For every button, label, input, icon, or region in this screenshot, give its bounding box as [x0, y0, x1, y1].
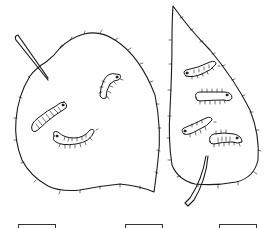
answer-box-2[interactable] [125, 224, 163, 228]
caterpillar-icon [32, 102, 67, 132]
caterpillar-icon [53, 129, 98, 148]
worksheet-illustration [0, 0, 271, 228]
right-leaf-stem-icon [185, 156, 208, 206]
answer-box-1[interactable] [18, 224, 56, 228]
caterpillar-icon [182, 117, 216, 137]
left-leaf [14, 30, 161, 194]
answer-box-3[interactable] [219, 224, 257, 228]
right-leaf-outline [169, 6, 258, 185]
caterpillar-icon [196, 89, 233, 104]
right-leaf [167, 6, 261, 206]
caterpillar-icon [184, 61, 220, 79]
caterpillar-icon [210, 130, 243, 147]
caterpillar-icon [99, 74, 123, 99]
left-leaf-outline [16, 33, 160, 192]
